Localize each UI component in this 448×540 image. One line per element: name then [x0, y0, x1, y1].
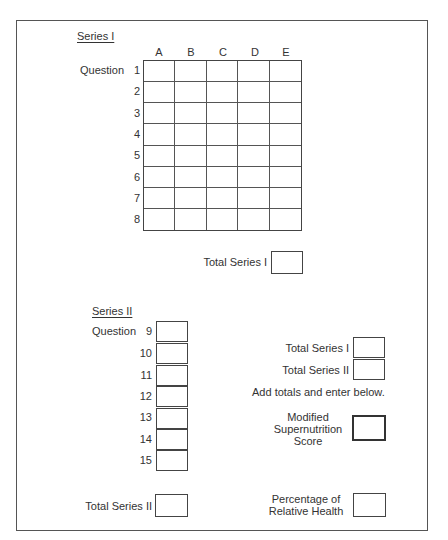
column-header-b: B: [175, 46, 207, 58]
grid-cell[interactable]: [175, 103, 206, 124]
grid-cell[interactable]: [144, 124, 175, 145]
grid-cell[interactable]: [175, 146, 206, 167]
column-header-e: E: [270, 46, 302, 58]
question-label-15: 15: [130, 454, 152, 466]
grid-cell[interactable]: [270, 167, 301, 188]
grid-cell[interactable]: [207, 146, 238, 167]
column-header-c: C: [207, 46, 239, 58]
question-label-13: 13: [130, 411, 152, 423]
question-15-box[interactable]: [156, 450, 188, 471]
grid-cell[interactable]: [238, 167, 269, 188]
series2-total-box[interactable]: [155, 494, 188, 517]
grid-cell[interactable]: [207, 103, 238, 124]
grid-cell[interactable]: [175, 124, 206, 145]
row-label-4: 4: [128, 128, 140, 140]
instruction-text: Add totals and enter below.: [252, 386, 385, 399]
question-12-box[interactable]: [156, 386, 188, 407]
row-label-8: 8: [128, 213, 140, 225]
row-label-2: 2: [128, 85, 140, 97]
series1-answer-grid: [143, 60, 302, 231]
grid-cell[interactable]: [144, 167, 175, 188]
grid-cell[interactable]: [207, 209, 238, 230]
grid-cell[interactable]: [238, 209, 269, 230]
summary-total-series1-box[interactable]: [353, 337, 385, 358]
grid-cell[interactable]: [270, 103, 301, 124]
row-label-6: 6: [128, 171, 140, 183]
grid-cell[interactable]: [207, 188, 238, 209]
grid-cell[interactable]: [238, 61, 269, 82]
question-label: Question: [80, 64, 124, 77]
grid-cell[interactable]: [144, 82, 175, 103]
grid-cell[interactable]: [270, 124, 301, 145]
grid-cell[interactable]: [144, 103, 175, 124]
question-14-box[interactable]: [156, 429, 188, 450]
percentage-label-line2: Relative Health: [262, 505, 350, 518]
series2-total-label: Total Series II: [60, 500, 152, 513]
grid-cell[interactable]: [175, 82, 206, 103]
grid-cell[interactable]: [175, 188, 206, 209]
grid-cell[interactable]: [175, 61, 206, 82]
grid-cell[interactable]: [270, 188, 301, 209]
question-label-12: 12: [130, 390, 152, 402]
question-label-9: 9: [130, 325, 152, 337]
grid-cell[interactable]: [144, 209, 175, 230]
grid-cell[interactable]: [207, 124, 238, 145]
grid-cell[interactable]: [207, 82, 238, 103]
question-13-box[interactable]: [156, 408, 188, 429]
question-9-box[interactable]: [156, 321, 188, 342]
grid-cell[interactable]: [238, 82, 269, 103]
grid-cell[interactable]: [238, 103, 269, 124]
relative-health-percentage-box[interactable]: [353, 493, 386, 517]
question-11-box[interactable]: [156, 365, 188, 386]
grid-cell[interactable]: [238, 188, 269, 209]
series1-total-label: Total Series I: [180, 256, 267, 269]
series1-total-box[interactable]: [271, 251, 303, 274]
grid-cell[interactable]: [238, 146, 269, 167]
grid-cell[interactable]: [175, 209, 206, 230]
row-label-3: 3: [128, 107, 140, 119]
grid-cell[interactable]: [144, 188, 175, 209]
grid-cell[interactable]: [144, 61, 175, 82]
question-label-10: 10: [130, 347, 152, 359]
column-header-a: A: [143, 46, 175, 58]
grid-cell[interactable]: [270, 146, 301, 167]
question-label-14: 14: [130, 433, 152, 445]
series2-title: Series II: [92, 305, 132, 318]
score-label-line3: Score: [268, 435, 348, 448]
summary-total-series2-label: Total Series II: [250, 364, 349, 377]
grid-cell[interactable]: [175, 167, 206, 188]
question-label-11: 11: [130, 369, 152, 381]
question-10-box[interactable]: [156, 343, 188, 364]
grid-cell[interactable]: [270, 209, 301, 230]
summary-total-series1-label: Total Series I: [250, 342, 349, 355]
grid-cell[interactable]: [144, 146, 175, 167]
column-header-d: D: [239, 46, 271, 58]
grid-cell[interactable]: [207, 167, 238, 188]
grid-cell[interactable]: [270, 82, 301, 103]
grid-cell[interactable]: [207, 61, 238, 82]
summary-total-series2-box[interactable]: [353, 359, 385, 380]
row-label-1: 1: [128, 64, 140, 76]
supernutrition-score-box[interactable]: [352, 415, 386, 441]
row-label-7: 7: [128, 192, 140, 204]
grid-cell[interactable]: [238, 124, 269, 145]
series1-title: Series I: [77, 30, 114, 43]
grid-cell[interactable]: [270, 61, 301, 82]
row-label-5: 5: [128, 149, 140, 161]
